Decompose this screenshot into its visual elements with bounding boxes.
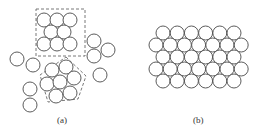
pentagon-cluster-particle: [53, 75, 67, 89]
lattice-particle: [234, 62, 248, 76]
loose-particle: [93, 68, 107, 82]
loose-particle: [87, 34, 101, 48]
lattice-particle: [199, 74, 213, 88]
figure-canvas: [0, 0, 255, 136]
pentagon-cluster-particle: [67, 71, 81, 85]
square-cluster-particle: [50, 37, 64, 51]
pentagon-cluster-particle: [45, 63, 59, 77]
square-cluster-particle: [37, 37, 51, 51]
lattice-particle: [227, 74, 241, 88]
loose-particle: [101, 43, 115, 57]
pentagon-cluster-particle: [40, 77, 54, 91]
lattice-particle: [170, 74, 184, 88]
pentagon-cluster-particle: [63, 86, 77, 100]
loose-particle: [23, 98, 37, 112]
lattice-particle: [234, 38, 248, 52]
lattice-particle: [213, 74, 227, 88]
loose-particle: [23, 82, 37, 96]
loose-particle: [87, 49, 101, 63]
square-cluster-particle: [63, 37, 77, 51]
panel-b-label: (b): [193, 115, 204, 125]
loose-particle: [26, 58, 40, 72]
panel-a-label: (a): [57, 115, 67, 125]
lattice-particle: [156, 74, 170, 88]
pentagon-cluster-particle: [49, 89, 63, 103]
lattice-particle: [184, 74, 198, 88]
loose-particle: [10, 52, 24, 66]
